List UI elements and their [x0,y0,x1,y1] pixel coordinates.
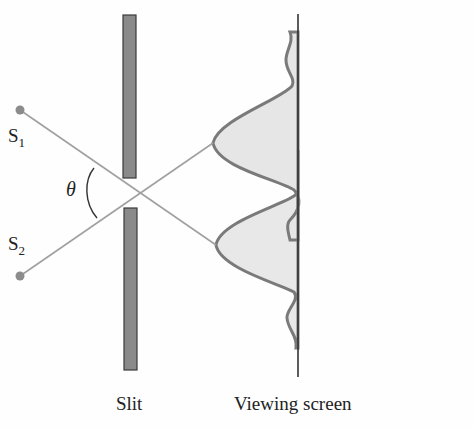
double-source-single-slit-diagram: S1 S2 θ Slit Viewing screen [0,0,473,429]
ray-from-s1 [20,110,216,245]
ray-from-s2 [20,143,213,276]
angle-theta-label: θ [66,178,76,201]
source-s2-label: S2 [8,233,25,259]
slit-lower-barrier [124,208,137,370]
diagram-graphics [0,0,473,429]
slit-upper-barrier [123,15,136,178]
viewing-screen-label: Viewing screen [234,393,352,415]
slit-label: Slit [116,393,142,415]
angle-arc [87,168,97,218]
source-s1-label: S1 [8,125,25,151]
source-s1-dot [16,106,25,115]
source-s2-dot [16,272,25,281]
